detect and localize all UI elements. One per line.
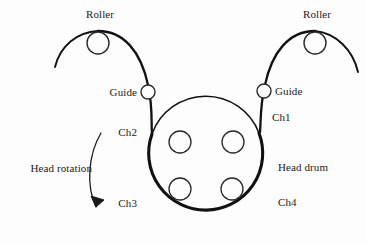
channel-label-ch1: Ch1 (272, 112, 291, 123)
head-drum-rim-top (152, 96, 259, 134)
diagram-canvas (0, 0, 366, 244)
head-upper-right (222, 131, 244, 153)
roller-right (304, 32, 326, 54)
head-drum-rim-bottom (149, 133, 263, 210)
channel-label-ch3: Ch3 (118, 198, 137, 209)
head-lower-right (221, 178, 243, 200)
guide-left-label: Guide (110, 87, 137, 98)
head-lower-left (169, 178, 191, 200)
channel-label-ch4: Ch4 (278, 197, 297, 208)
head-drum-label: Head drum (278, 162, 328, 173)
guide-right-label: Guide (275, 86, 302, 97)
channel-label-ch2: Ch2 (118, 127, 137, 138)
head-rotation-label: Head rotation (31, 163, 92, 174)
guide-left (141, 85, 155, 99)
roller-left-label: Roller (86, 9, 114, 20)
roller-left (87, 32, 109, 54)
head-drum-diagram: Roller Roller Guide Guide Ch1 Ch2 Ch3 Ch… (0, 0, 366, 244)
head-upper-left (169, 131, 191, 153)
head-rotation-arrowhead (91, 196, 104, 207)
roller-right-label: Roller (303, 9, 331, 20)
guide-right (257, 84, 271, 98)
